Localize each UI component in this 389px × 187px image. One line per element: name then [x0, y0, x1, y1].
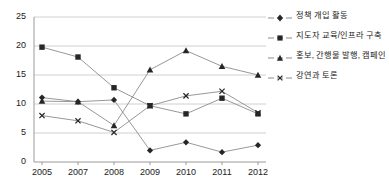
x-tick-2012: 2012 — [241, 167, 275, 177]
legend-item-0[interactable]: 정책 개입 활동 — [268, 6, 389, 26]
legend-label-2: 홍보, 간행물 발행, 캠페인 — [296, 51, 386, 61]
gridlines — [34, 17, 266, 162]
series-markers — [39, 44, 262, 155]
y-tick-10: 10 — [8, 98, 26, 108]
legend-label-3: 강연과 토론 — [296, 71, 338, 81]
legend-item-1[interactable]: 지도자 교육/인프라 구축 — [268, 26, 389, 46]
chart-legend: 정책 개입 활동 지도자 교육/인프라 구축 홍보, 간행물 발행, 캠페인 — [268, 6, 389, 86]
legend-triangle-icon — [268, 50, 292, 62]
x-tick-2007: 2007 — [61, 167, 95, 177]
x-tick-2008: 2008 — [97, 167, 131, 177]
legend-label-0: 정책 개입 활동 — [296, 11, 348, 21]
y-tick-15: 15 — [8, 69, 26, 79]
x-tick-2010: 2010 — [169, 167, 203, 177]
y-tick-20: 20 — [8, 40, 26, 50]
y-tick-25: 25 — [8, 11, 26, 21]
legend-item-2[interactable]: 홍보, 간행물 발행, 캠페인 — [268, 46, 389, 66]
legend-square-icon — [268, 30, 292, 42]
y-tick-5: 5 — [8, 127, 26, 137]
line-chart: 2520151050 2005200720082009201020112012 … — [0, 0, 389, 187]
legend-diamond-icon — [268, 10, 292, 22]
legend-x-icon — [268, 70, 292, 82]
legend-item-3[interactable]: 강연과 토론 — [268, 66, 389, 86]
legend-label-1: 지도자 교육/인프라 구축 — [296, 31, 382, 41]
y-tick-0: 0 — [8, 156, 26, 166]
x-tick-2011: 2011 — [205, 167, 239, 177]
series-lines — [42, 47, 258, 152]
x-tick-2009: 2009 — [133, 167, 167, 177]
x-tick-2005: 2005 — [25, 167, 59, 177]
